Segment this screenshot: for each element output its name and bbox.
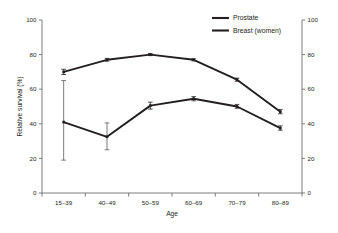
x-tick-label: 40–49: [98, 199, 116, 206]
data-point-marker: [236, 78, 239, 81]
x-tick-label: 15–39: [55, 199, 73, 206]
axis-labels-group: 00202040406060808010010015–3940–4950–596…: [16, 16, 318, 218]
x-tick-label: 50–59: [142, 199, 160, 206]
legend-group: ProstateBreast (women): [212, 14, 281, 35]
data-point-marker: [149, 104, 152, 107]
cropped-title-remnant: [0, 0, 338, 6]
y-tick-label-right: 100: [308, 16, 319, 23]
x-tick-label: 70–79: [228, 199, 246, 206]
axes-group: [39, 20, 305, 197]
x-axis-title: Age: [166, 210, 178, 218]
data-point-marker: [62, 71, 65, 74]
data-point-marker: [279, 110, 282, 113]
survival-line-chart: ProstateBreast (women) 00202040406060808…: [0, 0, 338, 233]
data-point-marker: [106, 58, 109, 61]
y-tick-label-left: 0: [33, 189, 37, 196]
legend-label-1: Prostate: [233, 14, 259, 21]
x-tick-label: 80–89: [272, 199, 290, 206]
y-tick-label-left: 100: [26, 16, 37, 23]
y-tick-label-right: 60: [308, 85, 315, 92]
x-tick-label: 60–69: [185, 199, 203, 206]
series-group: [61, 53, 282, 160]
y-tick-label-right: 0: [308, 189, 312, 196]
y-tick-label-left: 60: [30, 85, 37, 92]
y-tick-label-right: 80: [308, 51, 315, 58]
data-point-marker: [106, 135, 109, 138]
series-line-breast-women: [64, 99, 281, 137]
data-point-marker: [279, 127, 282, 130]
chart-container: ProstateBreast (women) 00202040406060808…: [0, 0, 338, 233]
y-axis-title: Relative survival (%): [16, 76, 24, 136]
data-point-marker: [149, 53, 152, 56]
y-tick-label-left: 40: [30, 120, 37, 127]
y-tick-label-left: 80: [30, 51, 37, 58]
y-tick-label-right: 40: [308, 120, 315, 127]
data-point-marker: [236, 105, 239, 108]
y-tick-label-right: 20: [308, 155, 315, 162]
y-tick-label-left: 20: [30, 155, 37, 162]
legend-label-2: Breast (women): [233, 27, 281, 35]
data-point-marker: [192, 58, 195, 61]
data-point-marker: [192, 97, 195, 100]
data-point-marker: [62, 121, 65, 124]
